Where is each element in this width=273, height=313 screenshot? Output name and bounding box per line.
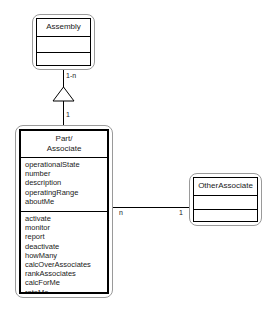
member-item: monitor [25,223,107,232]
other-associate-operation-list [194,210,257,214]
member-item: calcOverAssociates [25,260,107,269]
part-associate-operations-compartment: activatemonitorreportdeactivatehowManyca… [21,212,107,292]
member-item: description [25,178,107,187]
other-associate-attribute-list [194,196,257,200]
assembly-class-name: Assembly [37,19,90,35]
class-box-assembly[interactable]: Assembly [32,14,95,70]
member-item: report [25,232,107,241]
member-item: aboutMe [25,197,107,206]
multiplicity-label-part-end: 1 [66,111,70,119]
assembly-attribute-list [37,37,90,41]
part-associate-attributes-compartment: operationalStatenumberdescriptionoperati… [21,158,107,212]
part-associate-attribute-list: operationalStatenumberdescriptionoperati… [21,158,107,208]
part-associate-class-name: Part/ Associate [21,131,107,157]
part-associate-operation-list: activatemonitorreportdeactivatehowManyca… [21,212,107,292]
member-item: rankAssociates [25,269,107,278]
other-associate-class-name: OtherAssociate [194,178,257,194]
generalization-arrowhead [53,87,74,101]
class-box-part-associate[interactable]: Part/ Associate operationalStatenumberde… [15,125,113,298]
class-box-other-associate-inner: OtherAssociate [193,177,258,222]
class-box-part-associate-inner: Part/ Associate operationalStatenumberde… [19,129,109,294]
other-associate-attributes-compartment [194,196,257,210]
assembly-operation-list [37,53,90,57]
class-box-assembly-inner: Assembly [36,18,91,66]
member-item: calcForMe [25,278,107,287]
assembly-operations-compartment [37,53,90,65]
member-item: rateMe [25,288,107,292]
other-associate-operations-compartment [194,210,257,221]
assembly-name-compartment: Assembly [37,19,90,37]
class-box-other-associate[interactable]: OtherAssociate [189,173,262,226]
part-associate-name-compartment: Part/ Associate [21,131,107,158]
assembly-attributes-compartment [37,37,90,53]
other-associate-name-compartment: OtherAssociate [194,178,257,196]
multiplicity-label-association-part-end: n [119,209,123,217]
member-item: operationalState [25,160,107,169]
member-item: activate [25,214,107,223]
member-item: howMany [25,251,107,260]
member-item: deactivate [25,242,107,251]
multiplicity-label-assembly-end: 1-n [66,72,76,80]
multiplicity-label-association-other-end: 1 [179,209,183,217]
member-item: number [25,169,107,178]
member-item: operatingRange [25,188,107,197]
uml-class-diagram: Assembly 1-n 1 Part/ Associate operation… [0,0,273,313]
